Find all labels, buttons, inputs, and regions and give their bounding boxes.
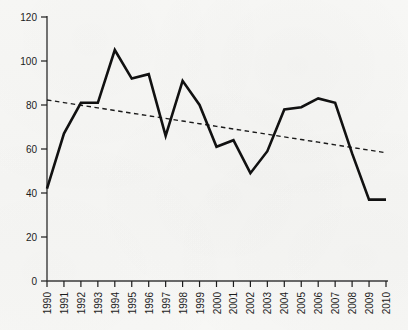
x-tick-label: 1996 xyxy=(144,292,155,315)
y-tick-label: 80 xyxy=(26,100,38,111)
x-tick-label: 2010 xyxy=(381,292,392,315)
y-tick-label: 60 xyxy=(26,144,38,155)
x-tick-label: 1992 xyxy=(76,292,87,315)
x-tick-label: 2006 xyxy=(313,292,324,315)
data-line-series xyxy=(47,50,386,200)
y-axis-ticks: 020406080100120 xyxy=(20,12,47,287)
x-tick-label: 2004 xyxy=(279,292,290,315)
x-tick-label: 2008 xyxy=(347,292,358,315)
y-tick-label: 40 xyxy=(26,188,38,199)
x-tick-label: 1993 xyxy=(93,292,104,315)
y-tick-label: 120 xyxy=(20,12,37,23)
x-tick-label: 2009 xyxy=(364,292,375,315)
x-tick-label: 2000 xyxy=(212,292,223,315)
x-tick-label: 1998 xyxy=(178,292,189,315)
y-tick-label: 0 xyxy=(31,276,37,287)
chart-canvas: 020406080100120 199019911992199319941995… xyxy=(0,0,408,330)
x-tick-label: 2002 xyxy=(245,292,256,315)
x-tick-label: 2003 xyxy=(262,292,273,315)
x-tick-label: 1991 xyxy=(59,292,70,315)
x-tick-label: 1999 xyxy=(195,292,206,315)
x-axis-ticks: 1990199119921993199419951996199719981999… xyxy=(42,281,392,314)
y-tick-label: 100 xyxy=(20,56,37,67)
x-tick-label: 1994 xyxy=(110,292,121,315)
x-tick-label: 2007 xyxy=(330,292,341,315)
x-tick-label: 1990 xyxy=(42,292,53,315)
x-tick-label: 2005 xyxy=(296,292,307,315)
x-tick-label: 2001 xyxy=(228,292,239,315)
x-tick-label: 1995 xyxy=(127,292,138,315)
x-tick-label: 1997 xyxy=(161,292,172,315)
line-chart: 020406080100120 199019911992199319941995… xyxy=(0,0,408,330)
y-tick-label: 20 xyxy=(26,232,38,243)
